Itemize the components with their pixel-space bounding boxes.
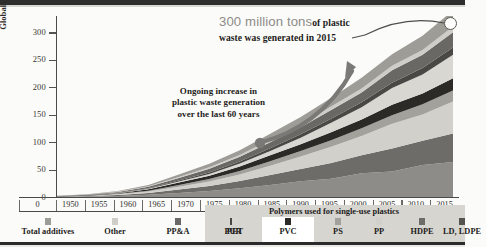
peak-annotation-headline: 300 million tons (219, 14, 312, 29)
legend-swatch-icon (335, 218, 342, 225)
legend-label: PVC (262, 227, 314, 236)
y-tick-label: 250 (0, 54, 46, 64)
legend-swatch-icon (175, 218, 182, 225)
peak-marker-2015 (444, 17, 457, 30)
legend-label: Total additives (0, 227, 96, 236)
y-tick-label: 200 (0, 82, 46, 92)
legend-label: PS (314, 227, 362, 236)
legend-item-ps[interactable]: PS (314, 218, 362, 242)
trend-annotation-line1: Ongoing increase in (180, 86, 257, 96)
peak-annotation: 300 million tonsof plastic waste was gen… (219, 15, 369, 44)
legend-swatch-icon (285, 218, 292, 225)
legend-label: PET (208, 227, 262, 236)
single-use-band-label: Polymers used for single-use plastics (205, 206, 463, 217)
y-tick (49, 115, 56, 116)
y-tick (49, 32, 56, 33)
trend-annotation-line3: over the last 60 years (178, 109, 260, 119)
legend-label: Other (84, 227, 146, 236)
y-tick-label: 150 (0, 109, 46, 119)
y-tick-label: 300 (0, 27, 46, 37)
y-tick (49, 170, 56, 171)
legend-swatch-icon (232, 218, 239, 225)
legend-item-pvc[interactable]: PVC (262, 218, 314, 242)
legend-swatch-icon (112, 218, 119, 225)
legend-swatch-icon (376, 218, 383, 225)
y-tick (49, 87, 56, 88)
legend: Polymers used for single-use plastics To… (0, 205, 465, 243)
legend-item-pp-a[interactable]: PP&A (150, 218, 206, 242)
legend-item-ld-ldpe[interactable]: LD, LDPE (432, 218, 486, 242)
legend-item-pet[interactable]: PET (208, 218, 262, 242)
legend-item-total-additives[interactable]: Total additives (0, 218, 96, 242)
trend-annotation: Ongoing increase in plastic waste genera… (156, 86, 281, 120)
legend-label: LD, LDPE (432, 227, 486, 236)
y-tick (49, 142, 56, 143)
trend-annotation-line2: plastic waste generation (172, 97, 265, 107)
legend-swatch-icon (419, 218, 426, 225)
y-tick-label: 50 (0, 164, 46, 174)
legend-swatch-icon (45, 218, 52, 225)
legend-swatch-icon (459, 218, 466, 225)
chart-area: Global primary plastic waste generation … (0, 7, 465, 205)
y-tick-label: 100 (0, 137, 46, 147)
legend-item-other[interactable]: Other (84, 218, 146, 242)
y-tick (49, 60, 56, 61)
legend-label: PP&A (150, 227, 206, 236)
